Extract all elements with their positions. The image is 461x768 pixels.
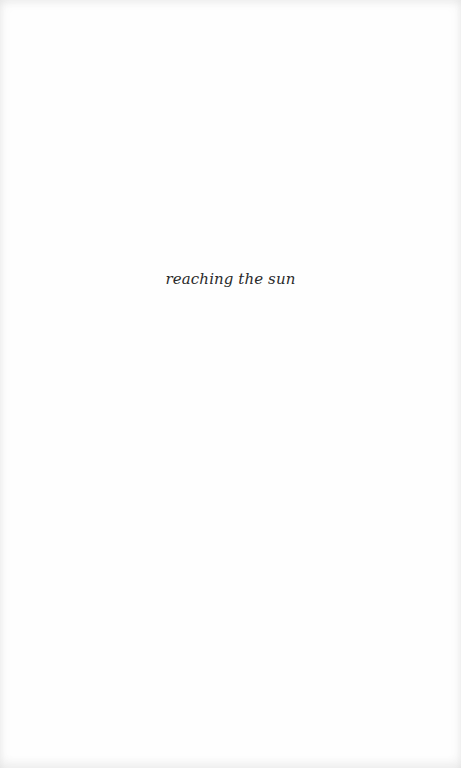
epigraph-text: reaching the sun xyxy=(0,270,461,288)
book-page: reaching the sun xyxy=(0,0,461,768)
